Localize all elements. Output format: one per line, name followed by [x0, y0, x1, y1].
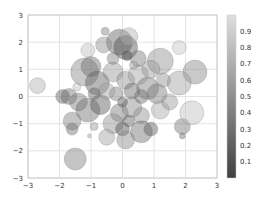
bubble	[90, 122, 98, 130]
bubble	[56, 90, 70, 104]
x-tick-label: −1	[86, 182, 96, 190]
y-tick-label: 2	[19, 39, 23, 47]
x-tick-label: −2	[54, 182, 64, 190]
bubble	[87, 134, 91, 138]
y-tick-label: −3	[13, 175, 23, 183]
bubble	[120, 28, 138, 46]
bubble	[134, 90, 148, 104]
y-tick-label: 3	[19, 12, 23, 20]
bubble	[107, 52, 119, 64]
bubble	[99, 83, 115, 99]
colorbar-tick-label: 0.5	[240, 93, 251, 101]
colorbar-tick-label: 0.7	[240, 60, 251, 68]
x-tick-label: 1	[152, 182, 156, 190]
colorbar-tick-label: 0.1	[240, 158, 251, 166]
bubble	[172, 41, 186, 55]
y-tick-label: 1	[19, 66, 23, 74]
bubble	[29, 78, 45, 94]
bubble	[179, 133, 185, 139]
colorbar-tick-label: 0.3	[240, 126, 251, 134]
colorbar-tick-label: 0.4	[240, 109, 252, 117]
y-tick-label: −2	[13, 147, 23, 155]
bubble	[96, 37, 112, 53]
bubble	[156, 73, 170, 87]
bubble	[99, 129, 115, 145]
bubble	[117, 131, 135, 149]
bubbles	[29, 27, 207, 170]
bubble	[180, 101, 204, 125]
x-tick-label: 2	[183, 182, 187, 190]
colorbar	[227, 15, 236, 178]
bubble	[64, 148, 86, 170]
y-axis-ticks: 3210−1−2−3	[13, 12, 23, 183]
bubble	[144, 122, 158, 136]
bubble	[101, 27, 109, 35]
x-tick-label: 0	[120, 182, 124, 190]
y-tick-label: −1	[13, 120, 23, 128]
colorbar-ticks: 0.90.80.70.60.50.40.30.20.1	[240, 28, 252, 166]
colorbar-tick-label: 0.8	[240, 44, 251, 52]
bubble	[162, 94, 178, 110]
bubble	[130, 61, 138, 69]
bubble-scatter-chart: −3−2−10123 3210−1−2−3 0.90.80.70.60.50.4…	[0, 0, 263, 199]
y-tick-label: 0	[19, 93, 23, 101]
x-axis-ticks: −3−2−10123	[23, 182, 219, 190]
colorbar-tick-label: 0.9	[240, 28, 251, 36]
bubble	[73, 83, 81, 91]
bubble	[66, 123, 78, 135]
x-tick-label: 3	[215, 182, 219, 190]
bubble	[81, 43, 95, 57]
colorbar-tick-label: 0.6	[240, 77, 252, 85]
x-tick-label: −3	[23, 182, 33, 190]
bubble	[167, 71, 191, 95]
bubble	[88, 88, 100, 100]
bubble	[118, 97, 128, 107]
colorbar-tick-label: 0.2	[240, 142, 251, 150]
